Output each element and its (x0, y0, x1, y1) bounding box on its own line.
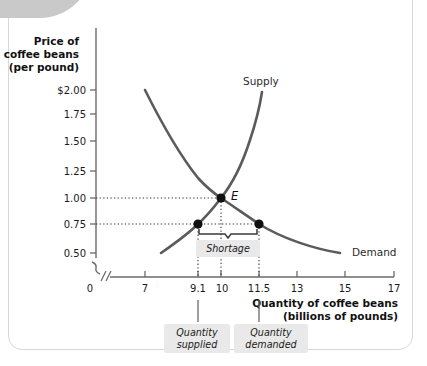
equilibrium-label-E: E (231, 189, 239, 203)
y-tick-label-6: $2.00 (57, 85, 86, 96)
y-tick-label-0: 0.50 (64, 248, 86, 259)
y-tick-label-5: 1.75 (64, 109, 86, 120)
supply-demand-chart: Price of coffee beans (per pound) $2.00 … (0, 0, 427, 366)
y-axis-title-line3: (per pound) (9, 61, 79, 73)
y-tick-label-3: 1.25 (64, 166, 86, 177)
x-tick-label-6: 15 (339, 283, 352, 294)
y-tick-labels: $2.00 1.75 1.50 1.25 1.00 0.75 0.50 (57, 85, 86, 259)
supply-curve (161, 92, 262, 253)
x-tick-label-4: 11.5 (248, 283, 270, 294)
x-axis-break-slash-2 (106, 271, 111, 281)
shortage-brace (199, 229, 257, 238)
figure-page: Price of coffee beans (per pound) $2.00 … (0, 0, 427, 366)
demand-curve (145, 90, 340, 253)
supply-curve-label: Supply (243, 75, 279, 87)
x-tick-label-7: 17 (388, 283, 401, 294)
shortage-label: Shortage (206, 243, 250, 254)
equilibrium-point-E (216, 193, 225, 202)
x-tick-label-5: 13 (291, 283, 304, 294)
y-tick-label-2: 1.00 (64, 193, 86, 204)
quantity-demanded-label-line2: demanded (245, 339, 297, 350)
y-axis-title-line2: coffee beans (4, 48, 79, 60)
quantity-supplied-label-line1: Quantity (176, 327, 218, 338)
x-tick-label-3: 10 (216, 283, 229, 294)
quantity-supplied-label-line2: supplied (177, 339, 218, 350)
y-axis (90, 28, 100, 274)
quantity-demanded-label-line1: Quantity (250, 327, 292, 338)
x-axis-title-line1: Quantity of coffee beans (252, 297, 398, 309)
x-axis (101, 271, 394, 281)
y-tick-label-1: 0.75 (64, 219, 86, 230)
x-tick-label-1: 7 (142, 283, 148, 294)
y-axis-title: Price of coffee beans (per pound) (4, 35, 80, 73)
x-axis-break-slash-1 (101, 271, 106, 281)
guide-lines (96, 198, 259, 277)
x-tick-label-2: 9.1 (190, 283, 206, 294)
y-tick-label-4: 1.50 (64, 136, 86, 147)
demand-curve-label: Demand (352, 246, 397, 258)
x-axis-title-line2: (billions of pounds) (283, 310, 398, 322)
x-tick-labels: 0 7 9.1 10 11.5 13 15 17 (87, 283, 401, 294)
quantity-demanded-point (254, 219, 263, 228)
x-axis-title: Quantity of coffee beans (billions of po… (252, 297, 398, 322)
quantity-supplied-point (193, 219, 202, 228)
x-tick-label-0: 0 (87, 283, 93, 294)
y-axis-title-line1: Price of (34, 35, 80, 47)
quantity-supplied-callout: Quantity supplied (164, 300, 230, 353)
y-axis-break (92, 262, 100, 274)
